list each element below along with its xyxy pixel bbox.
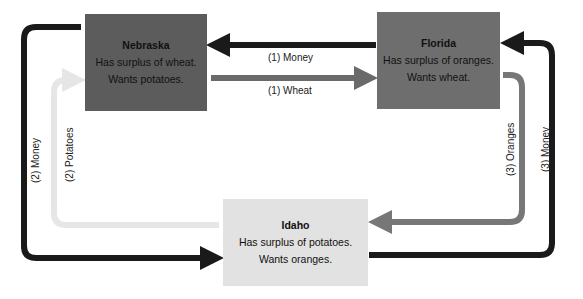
- label-wheat-1: (1) Wheat: [268, 85, 312, 96]
- label-oranges-3: (3) Oranges: [505, 123, 516, 176]
- nebraska-wants: Wants potatoes.: [108, 71, 183, 88]
- idaho-box: Idaho Has surplus of potatoes. Wants ora…: [223, 199, 368, 286]
- label-potatoes-2: (2) Potatoes: [64, 128, 75, 182]
- idaho-wants: Wants oranges.: [259, 251, 332, 268]
- idaho-title: Idaho: [282, 217, 310, 234]
- label-money-1: (1) Money: [268, 52, 313, 63]
- florida-wants: Wants wheat.: [407, 69, 470, 86]
- idaho-surplus: Has surplus of potatoes.: [239, 234, 352, 251]
- nebraska-title: Nebraska: [122, 37, 169, 54]
- nebraska-surplus: Has surplus of wheat.: [96, 54, 197, 71]
- florida-surplus: Has surplus of oranges.: [383, 52, 494, 69]
- florida-box: Florida Has surplus of oranges. Wants wh…: [377, 12, 500, 109]
- nebraska-box: Nebraska Has surplus of wheat. Wants pot…: [85, 14, 207, 111]
- label-money-3: (3) Money: [540, 127, 551, 172]
- florida-title: Florida: [421, 35, 456, 52]
- label-money-2: (2) Money: [30, 138, 41, 183]
